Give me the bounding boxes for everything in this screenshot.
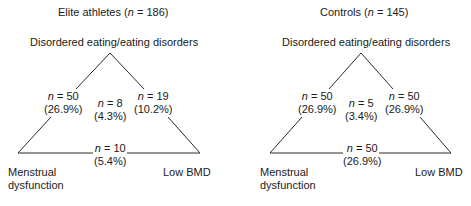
edge-right-value: n = 19 (10.2%) xyxy=(134,90,173,116)
vertex-low-bmd: Low BMD xyxy=(163,166,211,179)
vertex-disordered-eating: Disordered eating/eating disorders xyxy=(282,36,450,49)
elite-athletes-panel: Elite athletes (n = 186) Disordered eati… xyxy=(0,0,235,206)
center-value: n = 5 (3.4%) xyxy=(345,97,377,123)
edge-left-value: n = 50 (26.9%) xyxy=(44,90,83,116)
controls-panel: Controls (n = 145) Disordered eating/eat… xyxy=(236,0,471,206)
edge-right-value: n = 50 (26.9%) xyxy=(385,90,424,116)
center-value: n = 8 (4.3%) xyxy=(94,97,126,123)
panel-title: Elite athletes (n = 186) xyxy=(58,6,168,19)
edge-left-value: n = 50 (26.9%) xyxy=(298,90,337,116)
edge-bottom-value: n = 10 (5.4%) xyxy=(94,142,126,168)
vertex-menstrual-dysfunction: Menstrual dysfunction xyxy=(8,166,64,192)
edge-bottom-value: n = 50 (26.9%) xyxy=(343,142,382,168)
vertex-menstrual-dysfunction: Menstrual dysfunction xyxy=(260,166,316,192)
panel-title: Controls (n = 145) xyxy=(320,6,408,19)
vertex-disordered-eating: Disordered eating/eating disorders xyxy=(30,36,198,49)
vertex-low-bmd: Low BMD xyxy=(415,166,463,179)
